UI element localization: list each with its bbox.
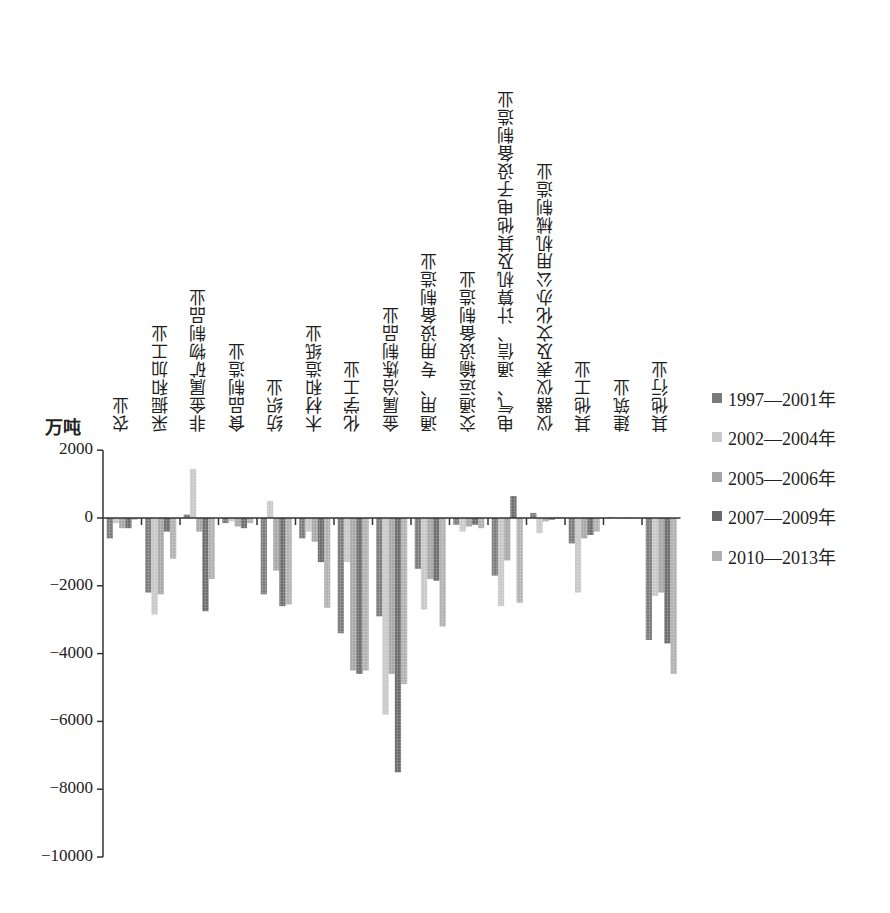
legend-swatch-2005-2006 — [712, 472, 722, 482]
bar-texture — [305, 518, 311, 532]
legend-label: 1997—2001年 — [728, 385, 836, 411]
legend: 1997—2001年 2002—2004年 2005—2006年 2007—20… — [712, 378, 836, 576]
legend-swatch-2010-2013 — [712, 551, 722, 561]
category-label: 木材和造纸业 — [305, 324, 324, 432]
bar-texture — [389, 518, 395, 674]
legend-item: 2002—2004年 — [712, 418, 836, 458]
bar-texture — [472, 518, 478, 525]
legend-label: 2010—2013年 — [728, 543, 836, 569]
bar-texture — [170, 518, 176, 559]
legend-item: 2007—2009年 — [712, 497, 836, 537]
category-label: 其他行业 — [651, 360, 670, 432]
category-label: 非金属矿物制品业 — [189, 288, 208, 432]
bar-texture — [415, 518, 421, 569]
category-label: 建筑业 — [613, 378, 632, 432]
category-label: 化学工业 — [343, 360, 362, 432]
y-tick-label: −8000 — [13, 778, 93, 798]
y-axis-unit-label: 万吨 — [45, 413, 81, 439]
bar-texture — [363, 518, 369, 671]
bar-texture — [664, 518, 670, 643]
legend-swatch-2007-2009 — [712, 511, 722, 521]
y-tick-label: −4000 — [13, 643, 93, 663]
bar-texture — [164, 518, 170, 532]
category-label: 其他工业 — [574, 360, 593, 432]
bar-texture — [382, 518, 388, 715]
bar-texture — [241, 518, 247, 528]
bar-texture — [536, 518, 542, 533]
bar-texture — [151, 518, 157, 615]
bar-texture — [196, 518, 202, 532]
bar-texture — [401, 518, 407, 684]
legend-label: 2005—2006年 — [728, 464, 836, 490]
legend-item: 1997—2001年 — [712, 378, 836, 418]
category-label: 农业 — [112, 396, 131, 432]
legend-item: 2010—2013年 — [712, 536, 836, 576]
bar-texture — [279, 518, 285, 606]
bar-texture — [286, 518, 292, 604]
legend-label: 2002—2004年 — [728, 424, 836, 450]
bar-texture — [356, 518, 362, 674]
bar-texture — [299, 518, 305, 538]
category-label: 仪器仪表及文化办公用机械制造业 — [536, 162, 555, 432]
bar-texture — [318, 518, 324, 562]
bar-texture — [581, 518, 587, 538]
bar-texture — [125, 518, 131, 528]
bar-texture — [575, 518, 581, 593]
bar-texture — [646, 518, 652, 640]
y-tick-label: 2000 — [13, 439, 93, 459]
y-tick-label: 0 — [13, 507, 93, 527]
category-label: 通用、专用设备制造业 — [420, 252, 439, 432]
bar-texture — [261, 518, 267, 594]
bar-texture — [395, 518, 401, 772]
bar-texture — [594, 518, 600, 532]
y-tick-label: −2000 — [13, 575, 93, 595]
bar-texture — [433, 518, 439, 581]
bar-texture — [658, 518, 664, 593]
bar-texture — [427, 518, 433, 579]
bar-texture — [504, 518, 510, 560]
bar-texture — [459, 518, 465, 532]
y-tick-label: −6000 — [13, 710, 93, 730]
bar-texture — [344, 518, 350, 562]
bar-texture — [267, 501, 273, 518]
bar-texture — [190, 469, 196, 518]
category-label: 纺织业 — [266, 378, 285, 432]
bar-texture — [421, 518, 427, 610]
bar-texture — [440, 518, 446, 626]
bar-texture — [235, 518, 241, 526]
bar-texture — [119, 518, 125, 528]
bar-texture — [350, 518, 356, 671]
bar-texture — [587, 518, 593, 535]
bar-texture — [247, 518, 253, 523]
bar-texture — [202, 518, 208, 611]
bar-texture — [466, 518, 472, 526]
legend-swatch-2002-2004 — [712, 432, 722, 442]
legend-swatch-1997-2001 — [712, 393, 722, 403]
category-label: 食品制造业 — [228, 342, 247, 432]
bar-texture — [498, 518, 504, 606]
bars-group — [107, 469, 677, 772]
category-label: 电气、通信、计算机及其他电子设备制造业 — [497, 90, 516, 432]
bar-texture — [338, 518, 344, 633]
bar-texture — [492, 518, 498, 576]
legend-label: 2007—2009年 — [728, 503, 836, 529]
legend-item: 2005—2006年 — [712, 457, 836, 497]
bar-texture — [209, 518, 215, 579]
bar-texture — [222, 518, 228, 523]
bar-texture — [510, 496, 516, 518]
bar-texture — [324, 518, 330, 608]
category-label: 采掘和加工业 — [151, 324, 170, 432]
y-tick-label: −10000 — [13, 846, 93, 866]
bar-texture — [113, 518, 119, 523]
category-label: 交通运输设备制造业 — [459, 270, 478, 432]
bar-texture — [376, 518, 382, 616]
bar-texture — [145, 518, 151, 593]
bar-texture — [530, 513, 536, 518]
bar-texture — [158, 518, 164, 594]
bar-texture — [478, 518, 484, 528]
bar-texture — [652, 518, 658, 596]
bar-texture — [312, 518, 318, 542]
bar-texture — [273, 518, 279, 571]
category-label: 金属冶炼制品业 — [382, 306, 401, 432]
bar-texture — [569, 518, 575, 543]
